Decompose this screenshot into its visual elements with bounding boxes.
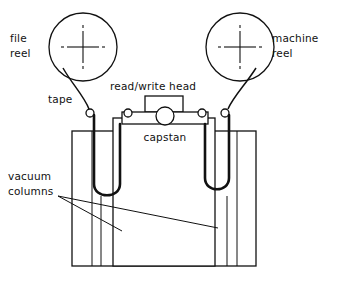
head-left-roller (124, 109, 132, 117)
capstan-label: capstan (144, 131, 187, 143)
tape-drive-schematic-svg: file reel machine reel tape read/write h… (0, 0, 337, 285)
capstan-roller (156, 107, 174, 125)
file-reel-label-line2: reel (10, 47, 31, 59)
vacuum-columns-label-line1: vacuum (8, 170, 51, 182)
machine-reel-group (206, 13, 274, 81)
head-right-roller (198, 109, 206, 117)
machine-reel-label-line2: reel (272, 47, 293, 59)
tape-drive-diagram: file reel machine reel tape read/write h… (0, 0, 337, 285)
read-write-head-label: read/write head (110, 80, 196, 92)
read-write-head-group (122, 96, 208, 125)
file-reel-label-line1: file (10, 32, 27, 44)
vacuum-columns-label-line2: columns (8, 185, 54, 197)
tape-label: tape (48, 93, 72, 105)
machine-reel-label-line1: machine (272, 32, 319, 44)
file-reel-group (49, 13, 117, 81)
